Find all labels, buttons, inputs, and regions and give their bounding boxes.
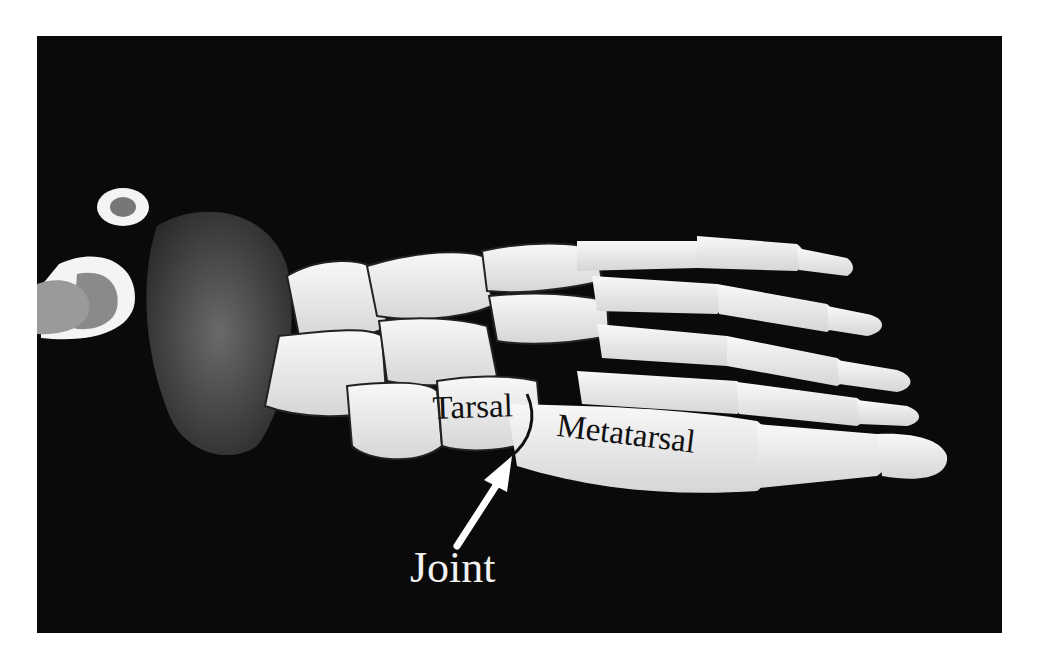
- tarsal-label: Tarsal: [432, 389, 513, 425]
- foot-skeleton-illustration: [37, 36, 1002, 633]
- joint-label: Joint: [410, 546, 496, 590]
- tibia-fibula-sections: [37, 188, 149, 339]
- foot-skeleton-figure: Tarsal Metatarsal Joint: [37, 36, 1002, 633]
- arrow-icon: [457, 456, 512, 546]
- calcaneus: [146, 212, 291, 455]
